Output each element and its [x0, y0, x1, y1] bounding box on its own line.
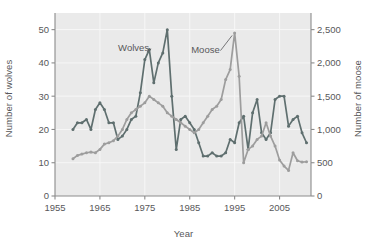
data-point [107, 141, 110, 144]
data-point [94, 108, 97, 111]
data-point [278, 95, 281, 98]
data-point [175, 118, 178, 121]
data-point [121, 128, 124, 131]
data-point [152, 81, 155, 84]
data-point [184, 125, 187, 128]
data-point [125, 128, 128, 131]
data-point [274, 98, 277, 101]
data-point [157, 61, 160, 64]
data-point [215, 155, 218, 158]
data-point [265, 138, 268, 141]
data-point [179, 118, 182, 121]
data-point [202, 155, 205, 158]
data-point [305, 141, 308, 144]
data-point [283, 165, 286, 168]
y-axis-left-tick-label: 40 [38, 57, 49, 68]
data-point [215, 105, 218, 108]
data-point [139, 91, 142, 94]
data-point [125, 118, 128, 121]
data-point [71, 128, 74, 131]
data-point [301, 161, 304, 164]
data-point [211, 108, 214, 111]
x-axis-tick-label: 1955 [44, 202, 65, 213]
data-point [193, 128, 196, 131]
y-axis-right-tick-label: 2,500 [317, 24, 341, 35]
data-point [112, 121, 115, 124]
data-point [238, 121, 241, 124]
data-point [152, 98, 155, 101]
data-point [287, 169, 290, 172]
data-point [170, 115, 173, 118]
data-point [157, 101, 160, 104]
data-point [80, 121, 83, 124]
data-point [301, 131, 304, 134]
data-point [166, 111, 169, 114]
data-point [292, 151, 295, 154]
data-point [134, 108, 137, 111]
y-axis-left-tick-label: 50 [38, 24, 49, 35]
data-point [256, 138, 259, 141]
data-point [161, 51, 164, 54]
y-axis-left-tick-label: 10 [38, 157, 49, 168]
data-point [188, 121, 191, 124]
y-axis-right-tick-label: 1,500 [317, 91, 341, 102]
data-point [233, 141, 236, 144]
y-axis-left-tick-label: 20 [38, 124, 49, 135]
data-point [224, 151, 227, 154]
data-point [220, 98, 223, 101]
data-point [283, 95, 286, 98]
data-point [220, 155, 223, 158]
data-point [256, 98, 259, 101]
data-point [260, 135, 263, 138]
data-point [233, 31, 236, 34]
data-point [274, 145, 277, 148]
x-axis-tick-label: 1965 [89, 202, 110, 213]
chart-plot-area: 0102030405005001,0001,5002,0002,50019551… [0, 0, 367, 250]
data-point [242, 161, 245, 164]
data-point [224, 78, 227, 81]
x-axis-tick-label: 1985 [179, 202, 200, 213]
data-point [130, 111, 133, 114]
data-point [98, 148, 101, 151]
data-point [89, 151, 92, 154]
data-point [193, 131, 196, 134]
x-axis-tick-label: 1975 [134, 202, 155, 213]
data-point [161, 105, 164, 108]
data-point [166, 28, 169, 31]
data-point [238, 75, 241, 78]
data-point [94, 151, 97, 154]
data-point [206, 155, 209, 158]
data-point [247, 148, 250, 151]
y-axis-right-tick-label: 0 [317, 190, 322, 201]
series-annotation-label: Moose [191, 44, 220, 55]
data-point [184, 115, 187, 118]
data-point [265, 121, 268, 124]
data-point [251, 145, 254, 148]
data-point [103, 143, 106, 146]
data-point [80, 153, 83, 156]
data-point [229, 138, 232, 141]
data-point [130, 118, 133, 121]
data-point [211, 151, 214, 154]
data-point [278, 159, 281, 162]
data-point [197, 128, 200, 131]
data-point [242, 115, 245, 118]
chart-figure: Number of wolves Number of moose Year 01… [0, 0, 367, 250]
data-point [197, 141, 200, 144]
data-point [143, 58, 146, 61]
data-point [89, 128, 92, 131]
data-point [112, 139, 115, 142]
data-point [251, 111, 254, 114]
data-point [188, 128, 191, 131]
data-point [103, 108, 106, 111]
data-point [143, 101, 146, 104]
series-annotation-label: Wolves [118, 42, 149, 53]
data-point [76, 154, 79, 157]
data-point [206, 115, 209, 118]
data-point [292, 118, 295, 121]
data-point [116, 135, 119, 138]
data-point [139, 105, 142, 108]
x-axis-tick-label: 2005 [269, 202, 290, 213]
y-axis-right-tick-label: 1,000 [317, 124, 341, 135]
data-point [170, 95, 173, 98]
